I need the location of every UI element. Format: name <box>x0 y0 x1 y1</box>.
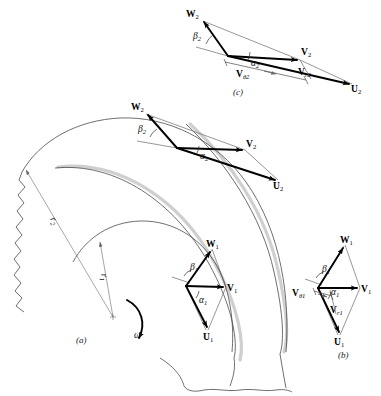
panel-c-vector-W2 <box>204 22 228 56</box>
panel-c-label-beta2: β2 <box>192 31 202 42</box>
panel-a-outlet-triangle: W2 V2 U2 β2 α2 <box>131 102 283 192</box>
panel-b-caption: (b) <box>338 350 349 360</box>
panel-c-group: W2 V2 U2 β2 α2 Vθ2 Vr2 (c) <box>186 9 361 97</box>
break-edge-left <box>14 172 25 312</box>
panel-a-label-U2: U2 <box>273 181 283 192</box>
panel-a-label-r1: r1 <box>98 273 110 282</box>
panel-a-vector-V1 <box>186 286 223 287</box>
panel-b-label-U1: U1 <box>334 337 344 348</box>
panel-a-label-beta2: β2 <box>137 124 147 135</box>
panel-b-label-beta1: β1 <box>321 264 330 275</box>
panel-c-caption: (c) <box>233 87 243 97</box>
panel-a-label-V2: V2 <box>246 139 256 150</box>
panel-b-group: W1 V1 U1 β1 α1 Vθ1 Vr1 (b) <box>292 235 371 360</box>
blade-curve-2-tail <box>280 354 286 388</box>
panel-c-beta2-arc <box>206 35 213 44</box>
panel-a-inlet-parallelogram-right <box>212 249 226 287</box>
panel-c-label-alpha2: α2 <box>251 58 260 69</box>
panel-a-label-alpha2: α2 <box>200 151 209 162</box>
panel-c-label-Vtheta2: Vθ2 <box>236 69 250 80</box>
rotation-centre-mark <box>110 314 116 320</box>
panel-a-caption: (a) <box>76 335 87 345</box>
panel-b-parallelogram-right <box>345 245 360 288</box>
outer-shroud-arc <box>22 118 287 352</box>
panel-c-label-V2: V2 <box>301 47 311 58</box>
blade-curve-1-tail <box>230 358 235 386</box>
figure-root: W2 V2 U2 β2 α2 Vθ2 Vr2 (c) r <box>0 0 381 396</box>
panel-b-label-W1: W1 <box>340 235 353 246</box>
panel-a-label-V1: V1 <box>227 283 237 294</box>
panel-a-beta2-arc <box>150 129 157 137</box>
panel-c-vtheta2-dim-arrow <box>264 71 276 74</box>
panel-a-inlet-lower-right <box>208 287 226 330</box>
panel-a-label-beta1: β1 <box>189 262 198 273</box>
panel-b-vtheta1-dim-line <box>314 291 332 296</box>
panel-c-label-Vr2: Vr2 <box>298 67 311 78</box>
panel-a-inlet-beta-reference <box>172 277 190 283</box>
panel-a-label-omega: ω <box>134 330 141 340</box>
panel-b-label-V1: V1 <box>361 284 371 295</box>
panel-a-vector-U1 <box>186 286 207 327</box>
break-edge-bottom <box>160 358 292 392</box>
radius-r2-arrow <box>26 170 113 317</box>
panel-b-label-Vr1: Vr1 <box>330 305 343 316</box>
panel-c-label-W2: W2 <box>186 9 199 20</box>
panel-a-vector-V2 <box>177 148 242 150</box>
panel-b-lower-right <box>340 288 360 335</box>
panel-a-label-W2: W2 <box>131 102 144 113</box>
panel-c-alpha2-arc <box>248 52 250 60</box>
panel-a-label-W1: W1 <box>206 239 219 250</box>
panel-a-label-alpha1: α1 <box>199 295 207 306</box>
panel-c-label-U2: U2 <box>351 84 361 95</box>
panel-a-group: r2 r1 ω (a) W2 V2 U2 β2 α2 <box>14 102 292 392</box>
panel-a-outlet-parallelogram-top <box>146 114 245 150</box>
panel-a-label-U1: U1 <box>203 332 213 343</box>
panel-a-inlet-triangle: W1 V1 U1 β1 α1 <box>172 239 237 343</box>
impeller-velocity-triangle-diagram: W2 V2 U2 β2 α2 Vθ2 Vr2 (c) r <box>0 0 381 396</box>
panel-b-label-Vtheta1: Vθ1 <box>292 288 305 299</box>
